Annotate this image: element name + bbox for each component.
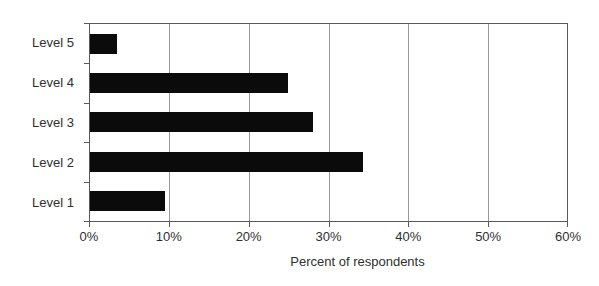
category-label-level-3: Level 3 bbox=[32, 103, 74, 143]
y-tick-mark bbox=[84, 23, 89, 24]
x-tick-label-10pct: 10% bbox=[156, 229, 182, 244]
category-label-level-1: Level 1 bbox=[32, 182, 74, 222]
category-label-level-2: Level 2 bbox=[32, 142, 74, 182]
y-tick-mark bbox=[84, 142, 89, 143]
bar-level-2 bbox=[90, 152, 363, 172]
x-tick-label-20pct: 20% bbox=[236, 229, 262, 244]
y-axis-category-labels: Level 5Level 4Level 3Level 2Level 1 bbox=[0, 23, 82, 222]
bar-row bbox=[90, 24, 567, 63]
x-tick-mark bbox=[408, 222, 409, 227]
bar-row bbox=[90, 142, 567, 181]
x-axis-tick-marks bbox=[89, 222, 568, 227]
bar-level-1 bbox=[90, 191, 165, 211]
x-tick-label-60pct: 60% bbox=[555, 229, 581, 244]
x-axis-tick-labels: 0%10%20%30%40%50%60% bbox=[89, 229, 568, 245]
bar-level-4 bbox=[90, 73, 288, 93]
x-tick-mark bbox=[567, 222, 568, 227]
bar-row bbox=[90, 103, 567, 142]
x-tick-label-50pct: 50% bbox=[475, 229, 501, 244]
x-tick-mark bbox=[488, 222, 489, 227]
y-tick-mark bbox=[84, 182, 89, 183]
y-axis-tick-marks bbox=[84, 23, 89, 222]
x-tick-mark bbox=[249, 222, 250, 227]
y-tick-mark bbox=[84, 103, 89, 104]
bar-chart-figure: Level 5Level 4Level 3Level 2Level 1 0%10… bbox=[0, 0, 599, 286]
x-tick-label-0pct: 0% bbox=[80, 229, 99, 244]
x-tick-mark bbox=[329, 222, 330, 227]
plot-area bbox=[89, 23, 568, 222]
x-tick-mark bbox=[169, 222, 170, 227]
category-label-level-5: Level 5 bbox=[32, 23, 74, 63]
x-tick-label-30pct: 30% bbox=[315, 229, 341, 244]
bar-level-5 bbox=[90, 34, 117, 54]
x-tick-label-40pct: 40% bbox=[395, 229, 421, 244]
x-axis-title: Percent of respondents bbox=[118, 254, 597, 269]
y-tick-mark bbox=[84, 63, 89, 64]
bar-row bbox=[90, 182, 567, 221]
bar-row bbox=[90, 63, 567, 102]
category-label-level-4: Level 4 bbox=[32, 63, 74, 103]
x-tick-mark bbox=[89, 222, 90, 227]
bar-level-3 bbox=[90, 112, 313, 132]
